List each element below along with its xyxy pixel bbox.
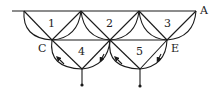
graph-diagram: 1 2 3 4 5 C E A [0,0,220,93]
face-label-5: 5 [136,45,143,58]
stem-4-end [80,83,83,86]
face-label-4: 4 [78,45,85,58]
face-label-2: 2 [106,17,113,30]
vertex-label-a: A [199,4,209,17]
vertex-label-c: C [38,42,46,55]
stem-5-end [138,84,141,87]
face-label-1: 1 [48,17,55,30]
vertex-label-e: E [171,42,179,55]
face-label-3: 3 [164,17,171,30]
